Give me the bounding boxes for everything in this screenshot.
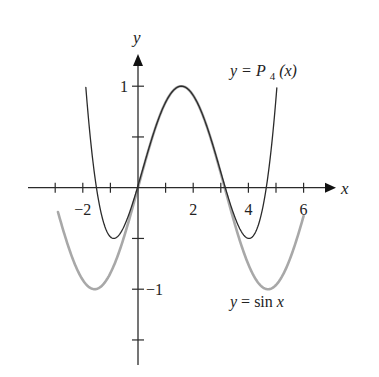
y-ticks: 1−1 bbox=[120, 78, 163, 340]
x-tick-label: 2 bbox=[189, 201, 197, 218]
y-tick-label: 1 bbox=[120, 78, 128, 95]
legend-sin-eq: = sin bbox=[241, 293, 277, 310]
axes-layer: −2246 1−1 bbox=[28, 54, 336, 365]
legend-p4-p: P bbox=[255, 62, 266, 79]
legend-p4-y: y = bbox=[228, 62, 256, 80]
x-tick-label: 6 bbox=[300, 201, 308, 218]
legend-p4-subscript: 4 bbox=[270, 70, 276, 82]
x-tick-label: −2 bbox=[74, 201, 91, 218]
y-axis-label: y bbox=[131, 28, 141, 47]
legend-sin-x: x bbox=[276, 293, 284, 310]
x-axis-label: x bbox=[340, 179, 349, 198]
chart: −2246 1−1 x y y = P 4 (x) y = sin x bbox=[0, 0, 379, 377]
x-tick-label: 4 bbox=[244, 201, 252, 218]
x-axis-arrow-icon bbox=[325, 183, 336, 193]
legend-sin-y: y bbox=[228, 293, 238, 311]
y-axis-arrow-icon bbox=[133, 54, 143, 66]
legend-p4-arg: (x) bbox=[279, 62, 297, 80]
legend-sin-label: y = sin x bbox=[228, 293, 284, 311]
legend-p4-label: y = P 4 (x) bbox=[228, 62, 297, 83]
y-tick-label: −1 bbox=[146, 281, 163, 298]
